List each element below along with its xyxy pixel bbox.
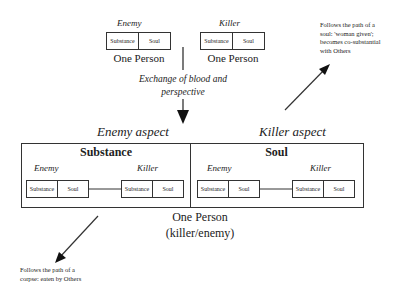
exchange-label: Exchange of blood and perspective: [118, 73, 248, 99]
substance-cell: Substance: [198, 181, 229, 197]
soul-panel-killer-box: Substance Soul: [292, 180, 355, 198]
soul-cell: Soul: [229, 181, 259, 197]
soul-cell: Soul: [58, 181, 88, 197]
exchange-label-line2: perspective: [118, 86, 248, 99]
soul-cell: Soul: [324, 181, 354, 197]
soul-panel-enemy-box: Substance Soul: [197, 180, 260, 198]
note-line: soul: 'woman given';: [320, 30, 415, 39]
corpse-path-note: Follows the path of a corpse: eaten by O…: [20, 266, 130, 283]
soul-cell: Soul: [153, 181, 183, 197]
enemy-aspect-heading: Enemy aspect: [97, 124, 169, 140]
soul-path-note: Follows the path of a soul: 'woman given…: [320, 21, 415, 55]
substance-panel-killer-label: Killer: [137, 163, 158, 173]
note-line: Follows the path of a: [320, 21, 415, 30]
exchange-label-line1: Exchange of blood and: [118, 73, 248, 86]
substance-panel-enemy-label: Enemy: [34, 163, 59, 173]
note-line: Follows the path of a: [20, 266, 130, 275]
bottom-caption-line1: One Person: [150, 209, 250, 225]
soul-panel-killer-label: Killer: [310, 163, 331, 173]
substance-panel-enemy-box: Substance Soul: [26, 180, 89, 198]
substance-cell: Substance: [27, 181, 58, 197]
soul-panel-title: Soul: [191, 145, 362, 160]
substance-panel-killer-box: Substance Soul: [121, 180, 184, 198]
substance-panel-title: Substance: [22, 145, 190, 160]
killer-aspect-heading: Killer aspect: [259, 124, 326, 140]
substance-cell: Substance: [293, 181, 324, 197]
note-line: with Others: [320, 47, 415, 56]
bottom-caption: One Person (killer/enemy): [150, 209, 250, 241]
note-line: becomes co-substantial: [320, 38, 415, 47]
soul-panel-enemy-label: Enemy: [207, 163, 232, 173]
substance-cell: Substance: [122, 181, 153, 197]
bottom-caption-line2: (killer/enemy): [150, 225, 250, 241]
note-line: corpse: eaten by Others: [20, 275, 130, 284]
